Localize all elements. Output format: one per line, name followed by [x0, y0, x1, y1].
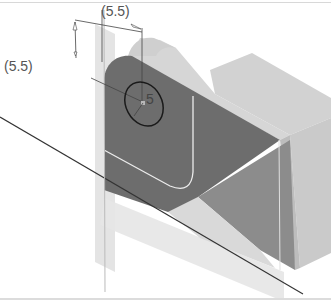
dim-arrow-down [74, 52, 77, 56]
cad-viewport[interactable]: (5.5) (5.5) 5 [0, 0, 331, 302]
dimension-hole-diameter[interactable]: 5 [146, 92, 154, 106]
part-model [0, 0, 331, 302]
dim-extension-top [75, 20, 142, 32]
dim-arrow-right [131, 24, 141, 29]
dim-arrow-up [73, 22, 77, 30]
dimension-vertical-offset[interactable]: (5.5) [4, 59, 33, 73]
dimension-horizontal-offset[interactable]: (5.5) [101, 4, 130, 18]
viewport-bottom-border [0, 298, 331, 300]
